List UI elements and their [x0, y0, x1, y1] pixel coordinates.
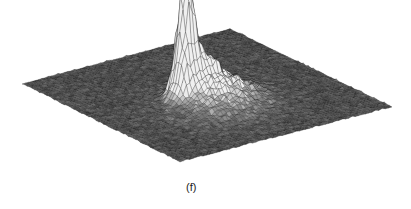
panel-label: (f): [186, 181, 196, 193]
mesh: [22, 0, 392, 162]
surface-plot: [0, 0, 411, 209]
